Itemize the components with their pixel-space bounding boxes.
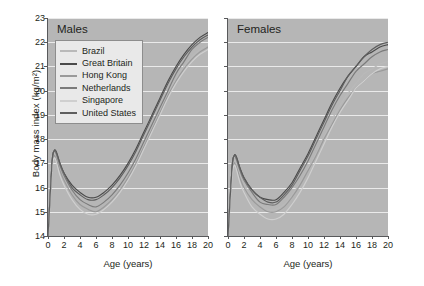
y-tick-label-15: 15 (3, 207, 45, 217)
x-tick-label-16: 16 (171, 240, 181, 250)
legend-item-label: Hong Kong (82, 71, 127, 80)
line-netherlands (228, 49, 388, 236)
x-tick-mark-6 (96, 236, 97, 239)
x-tick-mark-2 (64, 236, 65, 239)
x-tick-label-20: 20 (383, 240, 393, 250)
curves-females (228, 18, 388, 236)
x-tick-label-8: 8 (289, 240, 294, 250)
legend-item-netherlands[interactable]: Netherlands (60, 82, 136, 94)
x-tick-label-4: 4 (77, 240, 82, 250)
legend-item-label: Great Britain (82, 59, 133, 68)
x-tick-mark-10 (128, 236, 129, 239)
x-tick-label-0: 0 (225, 240, 230, 250)
line-singapore (228, 66, 388, 236)
x-tick-label-6: 6 (273, 240, 278, 250)
x-tick-mark-14 (160, 236, 161, 239)
x-tick-label-2: 2 (241, 240, 246, 250)
y-tick-mark-15 (44, 212, 47, 213)
x-tick-label-2: 2 (61, 240, 66, 250)
y-tick-mark-20 (224, 91, 227, 92)
x-tick-mark-20 (208, 236, 209, 239)
y-tick-label-14: 14 (3, 231, 45, 241)
legend-swatch-icon (60, 75, 77, 77)
legend-item-label: Singapore (82, 96, 123, 105)
y-tick-label-20: 20 (3, 86, 45, 96)
y-tick-label-22: 22 (3, 37, 45, 47)
x-tick-label-16: 16 (351, 240, 361, 250)
y-tick-mark-19 (44, 115, 47, 116)
y-tick-label-17: 17 (3, 158, 45, 168)
y-tick-mark-17 (44, 163, 47, 164)
x-tick-mark-2 (244, 236, 245, 239)
y-tick-label-21: 21 (3, 61, 45, 71)
y-tick-label-23: 23 (3, 13, 45, 23)
legend-item-label: United States (82, 109, 136, 118)
panel-males: Males BrazilGreat BritainHong KongNether… (48, 18, 208, 236)
y-axis-line-females (227, 18, 228, 236)
legend-item-brazil[interactable]: Brazil (60, 45, 136, 57)
x-tick-mark-4 (80, 236, 81, 239)
x-tick-label-8: 8 (109, 240, 114, 250)
x-tick-label-10: 10 (123, 240, 133, 250)
legend-swatch-icon (60, 112, 77, 114)
y-tick-mark-23 (44, 18, 47, 19)
x-tick-mark-12 (324, 236, 325, 239)
x-tick-mark-16 (356, 236, 357, 239)
plot-area-females (228, 18, 388, 236)
y-tick-label-16: 16 (3, 183, 45, 193)
x-tick-label-14: 14 (335, 240, 345, 250)
y-tick-label-19: 19 (3, 110, 45, 120)
x-tick-label-12: 12 (139, 240, 149, 250)
y-tick-mark-22 (44, 42, 47, 43)
x-tick-label-14: 14 (155, 240, 165, 250)
y-tick-label-18: 18 (3, 134, 45, 144)
x-axis-title-males: Age (years) (48, 258, 208, 269)
line-brazil (228, 62, 388, 236)
x-tick-mark-18 (372, 236, 373, 239)
x-tick-mark-12 (144, 236, 145, 239)
y-tick-mark-23 (224, 18, 227, 19)
y-tick-mark-20 (44, 91, 47, 92)
x-tick-label-6: 6 (93, 240, 98, 250)
legend-swatch-icon (60, 63, 77, 65)
y-tick-mark-19 (224, 115, 227, 116)
x-tick-mark-20 (388, 236, 389, 239)
legend-item-united-states[interactable]: United States (60, 107, 136, 119)
x-tick-label-20: 20 (203, 240, 213, 250)
x-tick-label-12: 12 (319, 240, 329, 250)
x-tick-mark-14 (340, 236, 341, 239)
legend-swatch-icon (60, 100, 77, 102)
x-axis-title-females: Age (years) (228, 258, 388, 269)
x-tick-mark-16 (176, 236, 177, 239)
y-tick-mark-18 (44, 139, 47, 140)
y-tick-mark-22 (224, 42, 227, 43)
x-tick-mark-10 (308, 236, 309, 239)
y-tick-mark-14 (44, 236, 47, 237)
legend-item-label: Netherlands (82, 84, 131, 93)
x-tick-mark-6 (276, 236, 277, 239)
x-tick-label-10: 10 (303, 240, 313, 250)
y-axis-line-males (47, 18, 48, 236)
y-tick-mark-17 (224, 163, 227, 164)
x-tick-label-4: 4 (257, 240, 262, 250)
bmi-reference-chart: Body mass index (kg/m²) Males BrazilGrea… (0, 0, 424, 286)
x-tick-mark-8 (292, 236, 293, 239)
y-tick-mark-16 (224, 188, 227, 189)
x-tick-mark-0 (48, 236, 49, 239)
x-tick-label-18: 18 (367, 240, 377, 250)
y-tick-mark-18 (224, 139, 227, 140)
legend-item-hong-kong[interactable]: Hong Kong (60, 70, 136, 82)
y-tick-mark-16 (44, 188, 47, 189)
y-tick-mark-14 (224, 236, 227, 237)
x-tick-mark-0 (228, 236, 229, 239)
legend: BrazilGreat BritainHong KongNetherlandsS… (55, 40, 143, 124)
legend-item-singapore[interactable]: Singapore (60, 95, 136, 107)
y-tick-mark-21 (224, 66, 227, 67)
y-tick-mark-21 (44, 66, 47, 67)
x-tick-label-0: 0 (45, 240, 50, 250)
x-tick-mark-8 (112, 236, 113, 239)
panel-title-females: Females (237, 23, 281, 35)
legend-item-great-britain[interactable]: Great Britain (60, 57, 136, 69)
panel-females: Females 14151617181920212223 02468101214… (228, 18, 388, 236)
legend-item-label: Brazil (82, 47, 105, 56)
